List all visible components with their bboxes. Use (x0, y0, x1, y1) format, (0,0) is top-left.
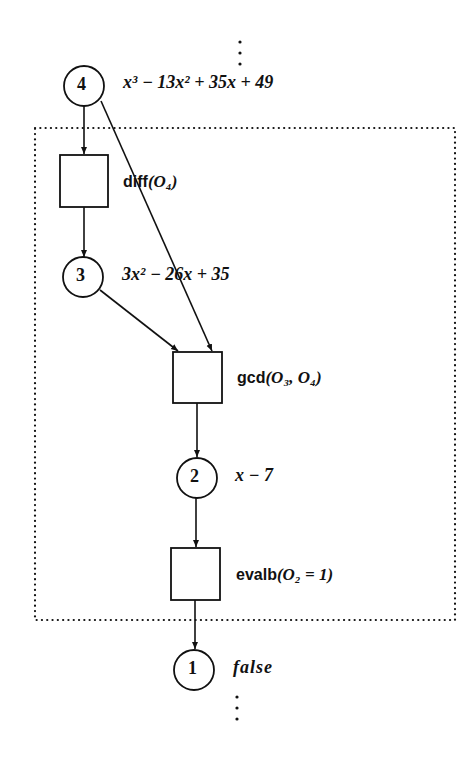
op-gcd-box (173, 352, 222, 403)
op-gcd-label: gcd(O₃, O₄) (237, 367, 322, 388)
node-4-value: x³ − 13x² + 35x + 49 (123, 72, 273, 93)
ellipsis-top-icon (238, 40, 241, 65)
node-3-value: 3x² − 26x + 35 (122, 264, 230, 285)
edge-4-gcd (101, 101, 212, 351)
node-1-label: 1 (188, 658, 197, 679)
op-gcd-name: gcd (237, 369, 265, 386)
op-diff-args: (O₄) (148, 172, 178, 191)
op-gcd-args: (O₃, O₄) (265, 368, 321, 387)
node-2-value: x − 7 (235, 465, 273, 486)
op-evalb-name: evalb (236, 566, 277, 583)
op-diff-name: diff (123, 173, 148, 190)
ellipsis-bottom-icon (235, 695, 238, 720)
op-evalb-label: evalb(O₂ = 1) (236, 564, 333, 585)
node-4-label: 4 (77, 74, 86, 95)
node-2-label: 2 (190, 466, 199, 487)
node-1-value: false (233, 657, 273, 678)
op-diff-label: diff(O₄) (123, 171, 177, 192)
edge-3-gcd (100, 290, 178, 351)
op-diff-box (60, 155, 108, 207)
op-evalb-box (171, 548, 220, 600)
op-evalb-args: (O₂ = 1) (277, 565, 333, 584)
node-3-label: 3 (76, 265, 85, 286)
